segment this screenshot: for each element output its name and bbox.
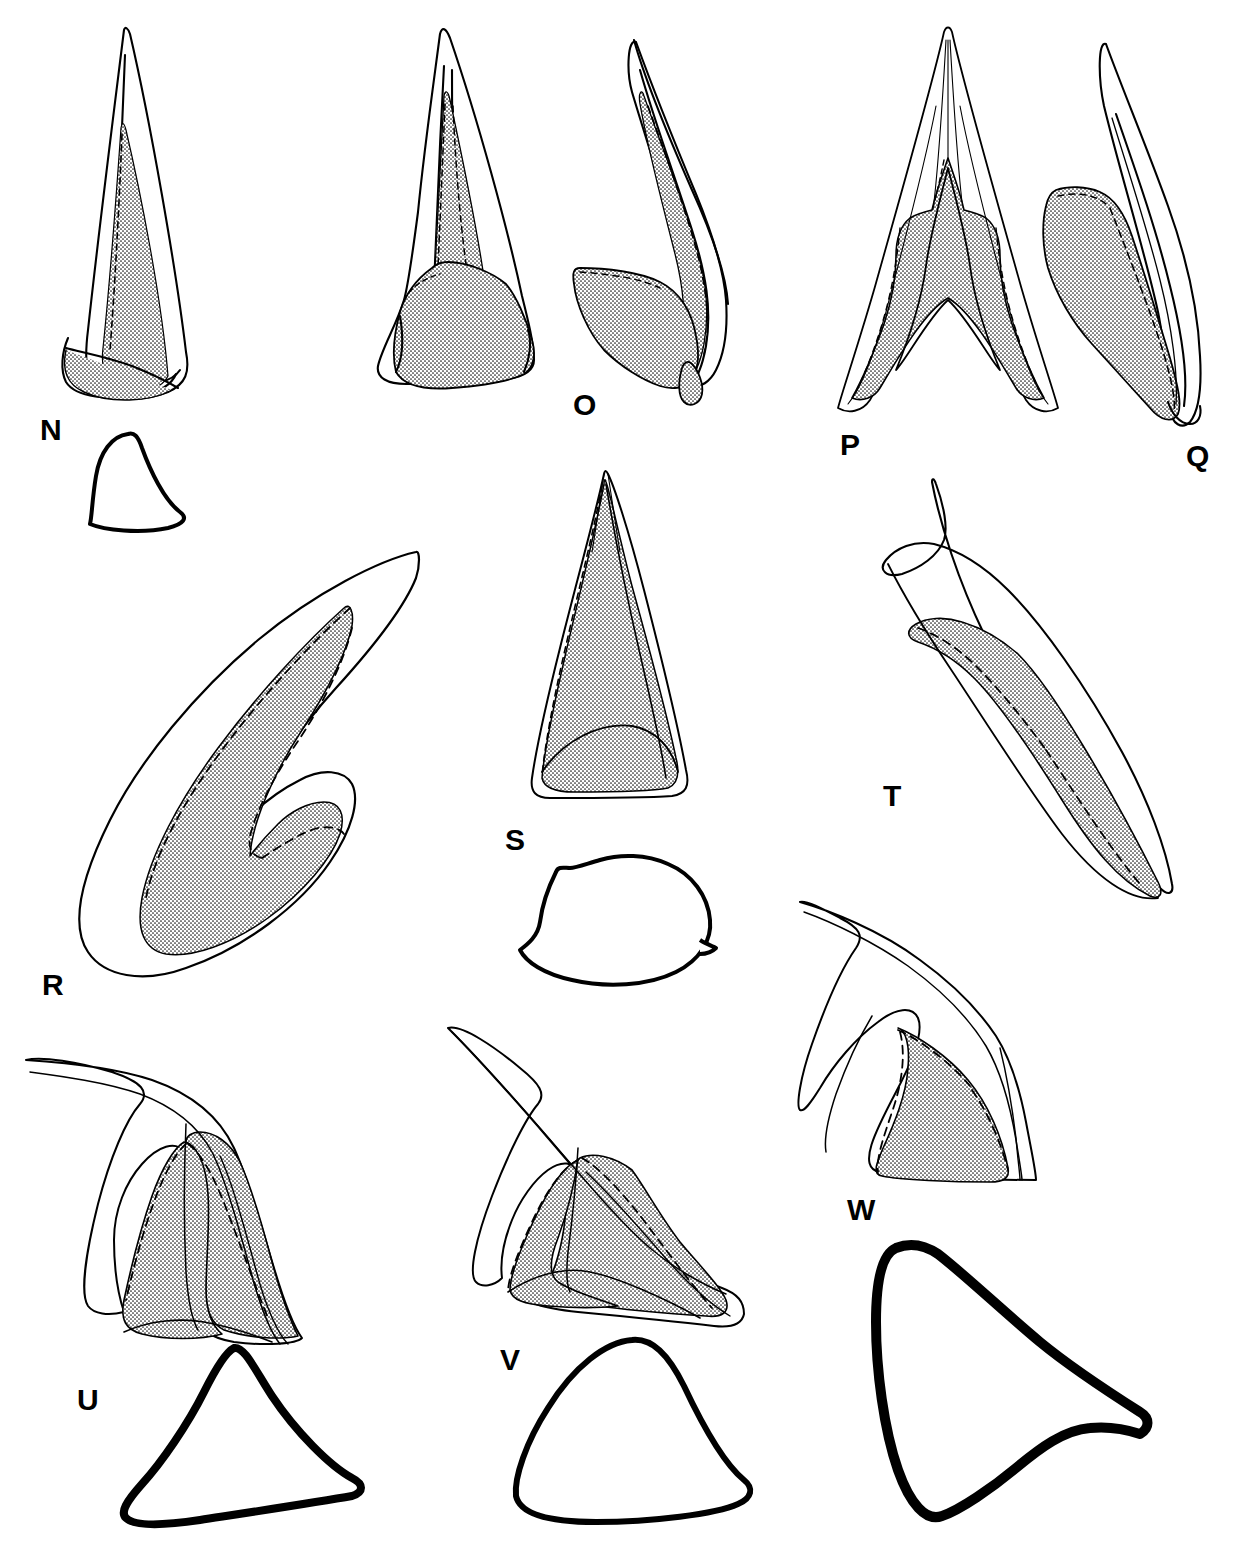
figure-label-r: R [42, 968, 64, 1001]
figure-label-q: Q [1186, 439, 1209, 472]
figure-label-n: N [40, 413, 62, 446]
figure-label-u: U [77, 1383, 99, 1416]
figure-label-w: W [847, 1193, 876, 1226]
figure-label-s: S [505, 823, 525, 856]
figure-label-o: O [573, 388, 596, 421]
specimen-plate: N O P Q R S T U V W [0, 0, 1233, 1555]
figure-label-t: T [883, 779, 901, 812]
figure-label-v: V [500, 1343, 520, 1376]
figure-label-p: P [840, 428, 860, 461]
